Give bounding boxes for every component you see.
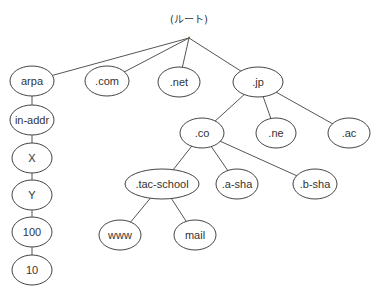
- node-com: .com: [85, 66, 129, 96]
- node-label: .ne: [268, 127, 283, 139]
- node-label: .a-sha: [222, 178, 253, 190]
- node-label: in-addr: [15, 114, 50, 126]
- node-label: .net: [170, 76, 188, 88]
- root-label: (ルート): [170, 14, 208, 25]
- tree-nodes: arpa.com.net.jpin-addrXY10010.co.ne.ac.t…: [10, 66, 370, 285]
- node-jp: .jp: [233, 67, 283, 97]
- node-label: X: [28, 152, 36, 164]
- node-mail: mail: [174, 220, 216, 250]
- node-n10: 10: [12, 255, 52, 285]
- node-label: www: [107, 229, 132, 241]
- node-label: 100: [23, 226, 41, 238]
- node-Y: Y: [12, 180, 52, 210]
- root-node: (ルート) .: [170, 14, 208, 40]
- node-arpa: arpa: [10, 66, 54, 96]
- node-label: Y: [28, 189, 36, 201]
- node-label: arpa: [21, 75, 44, 87]
- node-ne: .ne: [256, 118, 296, 148]
- node-ac: .ac: [328, 118, 370, 148]
- node-label: 10: [26, 264, 38, 276]
- node-label: .ac: [342, 127, 357, 139]
- node-label: .jp: [252, 76, 264, 88]
- node-in-addr: in-addr: [10, 105, 54, 135]
- root-dot: .: [187, 29, 190, 40]
- node-label: .tac-school: [135, 178, 188, 190]
- node-tac-school: .tac-school: [125, 169, 199, 199]
- node-net: .net: [158, 67, 200, 97]
- node-X: X: [12, 143, 52, 173]
- node-label: .co: [195, 127, 210, 139]
- dns-tree-diagram: (ルート) . arpa.com.net.jpin-addrXY10010.co…: [0, 0, 383, 295]
- node-www: www: [99, 220, 141, 250]
- node-b-sha: .b-sha: [293, 169, 337, 199]
- node-n100: 100: [12, 217, 52, 247]
- node-co: .co: [180, 118, 224, 148]
- node-a-sha: .a-sha: [216, 169, 258, 199]
- node-label: mail: [185, 229, 205, 241]
- node-label: .com: [95, 75, 119, 87]
- node-label: .b-sha: [300, 178, 331, 190]
